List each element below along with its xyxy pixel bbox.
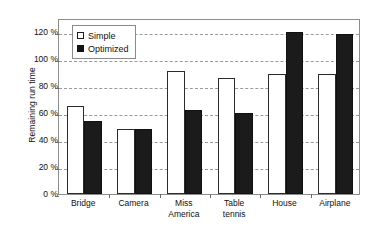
x-axis-label-miss-america: MissAmerica	[159, 198, 209, 219]
x-axis-label-bridge: Bridge	[58, 198, 108, 209]
bar-optimized-house	[286, 32, 304, 194]
bar-simple-airplane	[318, 74, 336, 194]
bar-simple-miss-america	[167, 71, 185, 194]
y-axis-title: Remaining run time	[27, 30, 37, 180]
bar-simple-bridge	[67, 106, 85, 194]
x-axis-label-line: Airplane	[310, 198, 360, 209]
bar-optimized-camera	[135, 129, 153, 194]
x-axis-label-line: House	[259, 198, 309, 209]
y-axis-tick-label: 60 %	[12, 109, 58, 118]
bar-simple-house	[268, 74, 286, 194]
y-axis-tick	[55, 196, 59, 197]
x-axis-label-house: House	[259, 198, 309, 209]
legend-item-simple: Simple	[77, 29, 129, 42]
bar-optimized-bridge	[84, 121, 102, 194]
y-axis-tick-label: 0 %	[12, 190, 58, 199]
bar-chart: Remaining run time 0 %20 %40 %60 %80 %10…	[0, 0, 380, 232]
bar-optimized-airplane	[336, 34, 354, 194]
x-axis-label-table-tennis: Tabletennis	[209, 198, 259, 219]
bar-simple-table-tennis	[218, 78, 236, 194]
legend-item-optimized: Optimized	[77, 42, 129, 55]
x-axis-label-line: Bridge	[58, 198, 108, 209]
x-axis-label-airplane: Airplane	[310, 198, 360, 209]
x-axis-label-line: America	[159, 209, 209, 220]
x-axis-label-camera: Camera	[108, 198, 158, 209]
legend-label-simple: Simple	[88, 31, 116, 41]
bar-optimized-table-tennis	[235, 113, 253, 194]
bar-optimized-miss-america	[185, 110, 203, 194]
x-axis-label-line: Table	[209, 198, 259, 209]
bar-simple-camera	[117, 129, 135, 194]
plot-area: Simple Optimized	[58, 19, 360, 195]
chart-legend: Simple Optimized	[72, 25, 136, 59]
x-axis-label-line: Miss	[159, 198, 209, 209]
x-axis-label-line: tennis	[209, 209, 259, 220]
y-axis-tick-label: 100 %	[12, 55, 58, 64]
filled-square-icon	[77, 45, 84, 52]
y-axis-tick-label: 40 %	[12, 136, 58, 145]
legend-label-optimized: Optimized	[88, 44, 129, 54]
y-axis-tick-label: 120 %	[12, 28, 58, 37]
y-axis-tick-label: 80 %	[12, 82, 58, 91]
x-axis-label-line: Camera	[108, 198, 158, 209]
y-axis-tick-label: 20 %	[12, 163, 58, 172]
x-axis-category-labels: BridgeCameraMissAmericaTabletennisHouseA…	[58, 198, 360, 230]
open-square-icon	[77, 32, 84, 39]
